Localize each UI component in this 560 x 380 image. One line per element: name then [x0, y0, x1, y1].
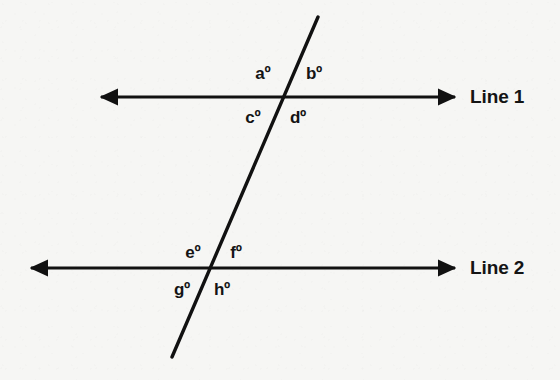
angle-label-f: fº — [230, 243, 241, 263]
line-2-label: Line 2 — [470, 257, 524, 279]
angle-label-h: hº — [214, 280, 230, 300]
angle-label-e: eº — [185, 243, 200, 263]
angle-label-b: bº — [306, 64, 322, 84]
angle-label-a: aº — [255, 64, 270, 84]
line-1-label: Line 1 — [470, 86, 524, 108]
angle-label-c: cº — [245, 108, 260, 128]
transversal-line — [172, 17, 318, 357]
angle-label-d: dº — [290, 108, 306, 128]
angle-label-g: gº — [174, 280, 190, 300]
geometry-diagram — [0, 0, 560, 380]
